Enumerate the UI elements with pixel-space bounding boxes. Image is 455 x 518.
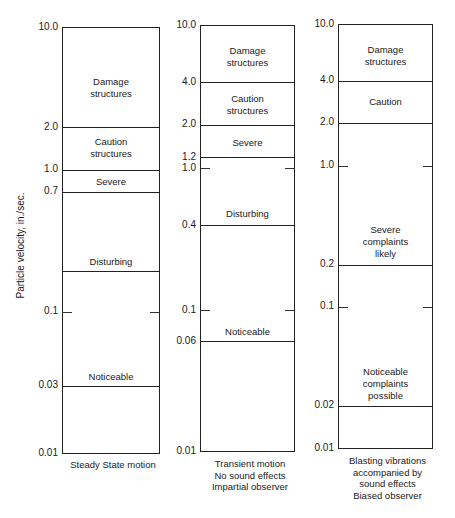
zone-severe: Severe bbox=[63, 176, 159, 188]
tick-label-1.0: 1.0 bbox=[162, 163, 196, 173]
threshold-line-0.02 bbox=[339, 406, 432, 407]
tick-label-1.0: 1.0 bbox=[24, 164, 58, 174]
tick-label-0.01: 0.01 bbox=[24, 448, 58, 458]
threshold-line-0.03 bbox=[63, 386, 159, 387]
tick-label-10.0: 10.0 bbox=[300, 19, 334, 29]
zone-damage-structures: Damage structures bbox=[201, 45, 294, 69]
zone-caution: Caution bbox=[339, 96, 432, 108]
tick-label-10.0: 10.0 bbox=[24, 22, 58, 32]
tick-label-0.1: 0.1 bbox=[300, 301, 334, 311]
zone-severe-complaints: Severe complaints likely bbox=[339, 224, 432, 260]
tick-mark-0.1-left bbox=[201, 310, 210, 311]
tick-label-4.0: 4.0 bbox=[162, 77, 196, 87]
chart-box-steady-state: Damage structures Caution structures Sev… bbox=[62, 27, 160, 454]
threshold-line-0.06 bbox=[201, 341, 294, 342]
tick-label-2.0: 2.0 bbox=[300, 117, 334, 127]
tick-label-1.0: 1.0 bbox=[300, 160, 334, 170]
chart-box-transient: Damage structures Caution structures Sev… bbox=[200, 25, 295, 452]
tick-mark-0.1-left bbox=[339, 307, 348, 308]
tick-label-4.0: 4.0 bbox=[300, 75, 334, 85]
threshold-line-4.0 bbox=[339, 81, 432, 82]
zone-caution-structures: Caution structures bbox=[201, 93, 294, 117]
threshold-line-4.0 bbox=[201, 82, 294, 83]
zone-noticeable-complaints: Noticeable complaints possible bbox=[339, 366, 432, 402]
zone-caution-structures: Caution structures bbox=[63, 136, 159, 160]
tick-label-10.0: 10.0 bbox=[162, 20, 196, 30]
zone-damage-structures: Damage structures bbox=[339, 44, 432, 68]
tick-mark-1.0-left bbox=[339, 166, 348, 167]
tick-label-2.0: 2.0 bbox=[162, 119, 196, 129]
threshold-line-2.0 bbox=[63, 127, 159, 128]
tick-mark-1.0-right bbox=[285, 168, 294, 169]
caption-steady-state: Steady State motion bbox=[58, 459, 168, 471]
tick-label-0.4: 0.4 bbox=[162, 220, 196, 230]
threshold-line-0.2 bbox=[339, 265, 432, 266]
zone-noticeable: Noticeable bbox=[201, 326, 294, 338]
tick-mark-1.0-left bbox=[201, 168, 210, 169]
threshold-line-disturbing bbox=[63, 271, 159, 272]
zone-damage-structures: Damage structures bbox=[63, 76, 159, 100]
zone-disturbing: Disturbing bbox=[63, 256, 159, 268]
tick-label-0.03: 0.03 bbox=[24, 380, 58, 390]
tick-label-0.02: 0.02 bbox=[300, 400, 334, 410]
threshold-line-0.4 bbox=[201, 225, 294, 226]
y-axis-label: Particle velocity, in./sec. bbox=[15, 181, 26, 311]
tick-mark-1.0-right bbox=[423, 166, 432, 167]
tick-label-0.2: 0.2 bbox=[300, 259, 334, 269]
tick-label-0.01: 0.01 bbox=[162, 446, 196, 456]
tick-label-1.2: 1.2 bbox=[162, 152, 196, 162]
tick-label-0.06: 0.06 bbox=[162, 336, 196, 346]
caption-blasting: Blasting vibrations accompanied by sound… bbox=[330, 455, 445, 501]
threshold-line-1.2 bbox=[201, 157, 294, 158]
zone-disturbing: Disturbing bbox=[201, 208, 294, 220]
threshold-line-0.7 bbox=[63, 192, 159, 193]
tick-label-0.1: 0.1 bbox=[162, 305, 196, 315]
zone-noticeable: Noticeable bbox=[63, 371, 159, 383]
tick-label-0.7: 0.7 bbox=[24, 186, 58, 196]
tick-mark-0.1-right bbox=[423, 307, 432, 308]
caption-transient: Transient motion No sound effects Impart… bbox=[195, 458, 305, 493]
tick-label-0.1: 0.1 bbox=[24, 306, 58, 316]
chart-box-blasting: Damage structures Caution Severe complai… bbox=[338, 24, 433, 449]
tick-label-0.01: 0.01 bbox=[300, 443, 334, 453]
tick-label-2.0: 2.0 bbox=[24, 122, 58, 132]
threshold-line-2.0 bbox=[339, 123, 432, 124]
tick-mark-0.1-right bbox=[285, 310, 294, 311]
threshold-line-2.0 bbox=[201, 125, 294, 126]
threshold-line-1.0 bbox=[63, 170, 159, 171]
zone-severe: Severe bbox=[201, 137, 294, 149]
tick-mark-0.1-right bbox=[150, 312, 159, 313]
tick-mark-0.1-left bbox=[63, 312, 72, 313]
